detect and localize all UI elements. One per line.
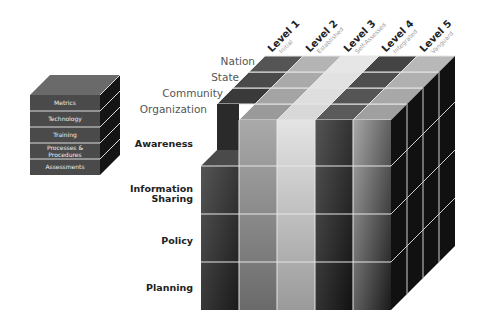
dimension-policy: Policy: [161, 236, 193, 246]
small-cube-assessments: Assessments: [36, 163, 94, 170]
small-cube-training: Training: [36, 131, 94, 138]
dimension-information-sharing: Information Sharing: [113, 184, 193, 204]
dimension-planning: Planning: [146, 283, 193, 293]
small-cube: [30, 75, 120, 175]
tier-community: Community: [162, 87, 223, 99]
small-cube-technology: Technology: [36, 115, 94, 122]
tier-state: State: [211, 71, 239, 83]
small-cube-metrics: Metrics: [36, 99, 94, 106]
dimension-awareness: Awareness: [135, 139, 193, 149]
tier-nation: Nation: [221, 55, 255, 67]
small-cube-processes: Processes & Procedures: [36, 144, 94, 158]
tier-organization: Organization: [140, 103, 207, 115]
